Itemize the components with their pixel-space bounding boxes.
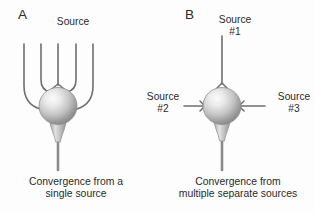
panel-a-caption: Convergence from a single source xyxy=(8,176,144,201)
source3-line2: #3 xyxy=(288,103,299,114)
panel-a-neuron xyxy=(24,44,93,170)
panel-a-caption-line2: single source xyxy=(45,188,106,199)
panel-b-source3-label: Source #3 xyxy=(271,91,315,114)
source2-line2: #2 xyxy=(157,103,168,114)
source1-line2: #1 xyxy=(229,26,240,37)
panel-b-source1-label: Source #1 xyxy=(201,14,269,37)
branch-inner-right xyxy=(62,44,76,93)
panel-b-neuron xyxy=(184,36,265,170)
panel-b-caption-line2: multiple separate sources xyxy=(179,188,297,199)
source3-line1: Source xyxy=(278,91,310,102)
panel-a-soma xyxy=(39,88,77,125)
panel-a-caption-line1: Convergence from a xyxy=(29,176,123,187)
source2-line1: Source xyxy=(147,91,179,102)
panel-b-caption-line1: Convergence from xyxy=(195,176,280,187)
branch-inner-left xyxy=(41,44,55,93)
panel-b-soma xyxy=(203,88,241,125)
panel-a-letter: A xyxy=(18,7,27,22)
panel-b-letter: B xyxy=(185,7,194,22)
panel-b-source2-label: Source #2 xyxy=(139,91,187,114)
source1-line1: Source xyxy=(219,14,251,25)
panel-a-source-label: Source xyxy=(33,16,113,28)
panel-b-caption: Convergence from multiple separate sourc… xyxy=(163,176,313,201)
